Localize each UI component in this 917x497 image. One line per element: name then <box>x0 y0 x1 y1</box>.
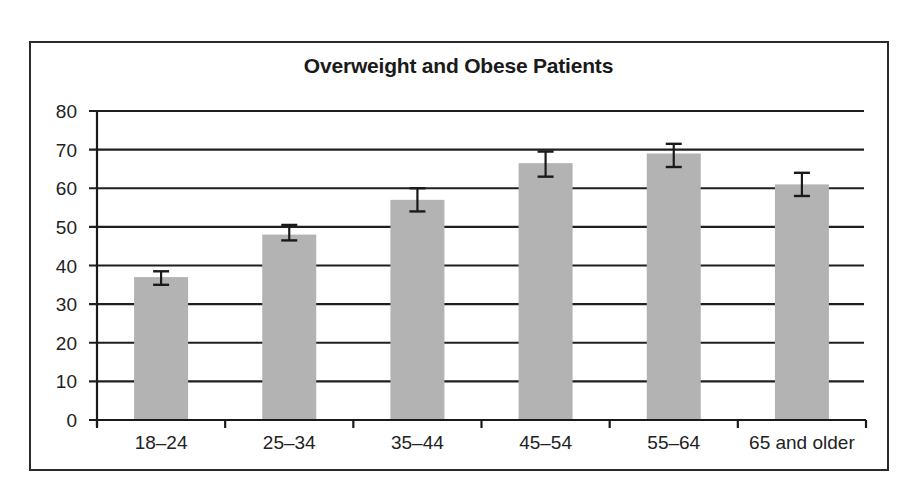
error-bars <box>153 144 810 285</box>
x-tick-label: 65 and older <box>749 432 855 453</box>
y-tick-label: 10 <box>56 371 77 392</box>
y-tick-label: 50 <box>56 217 77 238</box>
bar <box>390 200 444 420</box>
x-tick-label: 25–34 <box>263 432 316 453</box>
gridlines <box>89 111 864 381</box>
bar <box>775 184 829 420</box>
y-tick-label: 40 <box>56 256 77 277</box>
y-axis-labels: 01020304050607080 <box>56 101 77 431</box>
y-tick-label: 30 <box>56 294 77 315</box>
bar <box>647 153 701 420</box>
bar <box>519 163 573 420</box>
x-tick-label: 55–64 <box>647 432 700 453</box>
bars <box>134 153 829 420</box>
y-tick-label: 20 <box>56 333 77 354</box>
x-tick-label: 45–54 <box>519 432 572 453</box>
bar <box>134 277 188 420</box>
y-tick-label: 70 <box>56 140 77 161</box>
y-tick-label: 0 <box>66 410 77 431</box>
bar-chart: 01020304050607080 18–2425–3435–4445–5455… <box>0 0 917 497</box>
y-tick-label: 80 <box>56 101 77 122</box>
x-tick-label: 35–44 <box>391 432 444 453</box>
y-tick-label: 60 <box>56 178 77 199</box>
bar <box>262 235 316 420</box>
x-tick-label: 18–24 <box>135 432 188 453</box>
x-axis-labels: 18–2425–3435–4445–5455–6465 and older <box>135 432 856 453</box>
